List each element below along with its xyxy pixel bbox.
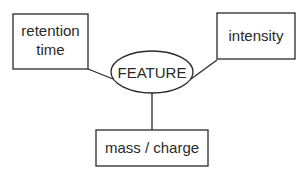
edge-feature-intensity bbox=[191, 60, 217, 79]
node-feature: FEATURE bbox=[111, 51, 193, 93]
node-intensity-label: intensity bbox=[228, 27, 284, 44]
edge-feature-retention-time bbox=[88, 69, 113, 79]
node-feature-label: FEATURE bbox=[118, 64, 187, 81]
node-mass-charge-label: mass / charge bbox=[105, 139, 199, 156]
node-retention-time: retention time bbox=[13, 14, 88, 69]
node-mass-charge: mass / charge bbox=[96, 130, 208, 166]
node-retention-time-line1: retention bbox=[21, 22, 79, 39]
node-intensity: intensity bbox=[217, 13, 295, 59]
node-retention-time-line2: time bbox=[36, 41, 64, 58]
feature-diagram: retention time intensity FEATURE mass / … bbox=[0, 0, 306, 175]
